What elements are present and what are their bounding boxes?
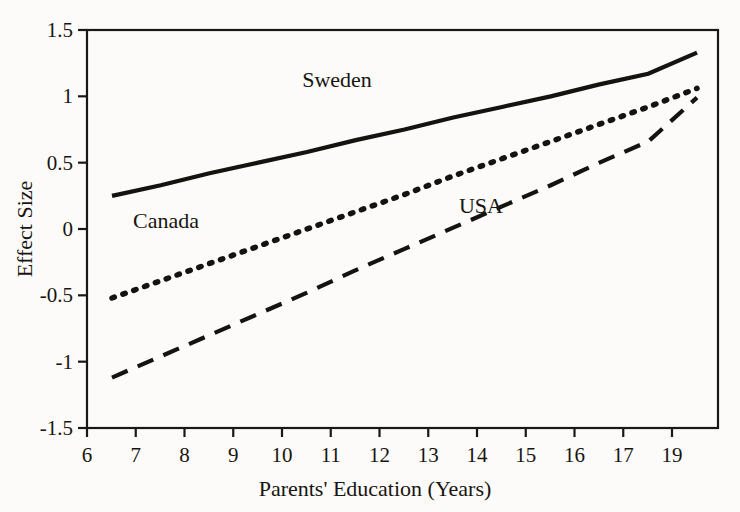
y-axis-tick-labels: 1.510.50-0.5-1-1.5 [40,18,73,440]
y-tick-label: 0.5 [47,151,73,175]
data-series-group [112,53,697,378]
series-line-canada [112,88,697,298]
x-tick-label: 7 [131,443,142,467]
x-axis-tick-labels: 6789101112131415161719 [82,443,683,467]
y-tick-label: 0 [63,217,74,241]
x-tick-label: 6 [82,443,93,467]
x-axis-ticks [87,428,672,437]
x-tick-label: 10 [272,443,293,467]
y-tick-label: 1.5 [47,18,73,42]
x-tick-label: 19 [662,443,683,467]
series-label-sweden: Sweden [302,67,372,92]
chart-figure: 1.510.50-0.5-1-1.5 678910111213141516171… [0,0,740,512]
x-tick-label: 13 [418,443,439,467]
series-label-canada: Canada [133,208,199,233]
y-axis-ticks [78,30,87,428]
x-tick-label: 15 [515,443,536,467]
x-tick-label: 12 [369,443,390,467]
series-label-usa: USA [459,193,503,218]
series-line-usa [112,98,697,378]
y-tick-label: -0.5 [40,283,73,307]
x-tick-label: 11 [321,443,341,467]
x-tick-label: 17 [613,443,634,467]
y-tick-label: -1 [56,350,74,374]
y-axis-title: Effect Size [12,181,37,278]
y-tick-label: -1.5 [40,416,73,440]
x-tick-label: 8 [179,443,190,467]
x-tick-label: 14 [467,443,489,467]
x-axis-title: Parents' Education (Years) [259,476,492,501]
series-line-sweden [112,53,697,196]
x-tick-label: 9 [228,443,239,467]
y-tick-label: 1 [63,84,74,108]
line-chart: 1.510.50-0.5-1-1.5 678910111213141516171… [0,0,740,512]
x-tick-label: 16 [564,443,585,467]
